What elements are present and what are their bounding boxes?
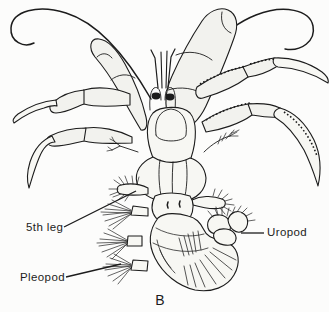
walking-leg-left-upper <box>13 88 130 123</box>
pleopod-leader-line <box>66 264 121 277</box>
uropod-label: Uropod <box>267 226 307 238</box>
pleopod-label: Pleopod <box>20 271 65 283</box>
eye-left <box>152 93 161 100</box>
hermit-crab-illustration <box>0 0 329 312</box>
anatomical-figure: 5th leg Uropod Pleopod B <box>0 0 329 312</box>
pleopod-3 <box>103 254 148 284</box>
figure-caption-letter: B <box>145 293 175 308</box>
walking-leg-right-lower <box>202 103 320 186</box>
uropod-cluster <box>208 206 255 245</box>
fifth-leg-label: 5th leg <box>26 221 63 233</box>
walking-leg-left-lower <box>28 127 132 188</box>
pleopod-2 <box>97 229 142 259</box>
eye-right <box>166 94 175 101</box>
small-leg-right-4th <box>204 130 239 152</box>
